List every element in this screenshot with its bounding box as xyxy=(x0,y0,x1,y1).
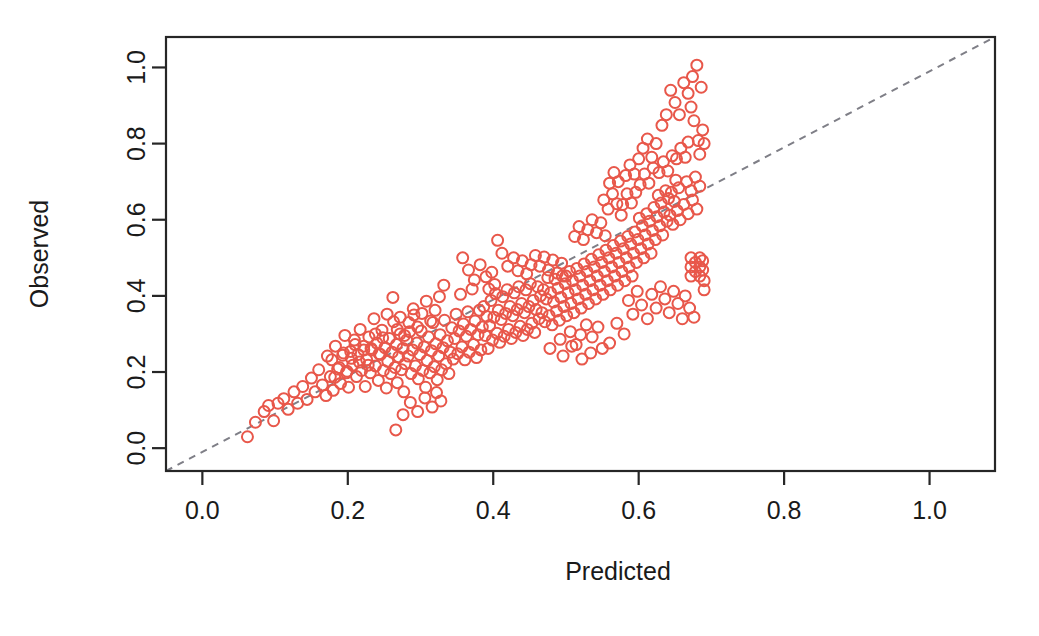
x-tick-label: 1.0 xyxy=(912,496,947,524)
x-axis-title: Predicted xyxy=(565,557,671,585)
plot-canvas: 0.00.20.40.60.81.0 0.00.20.40.60.81.0 Pr… xyxy=(0,0,1039,636)
scatter-plot-figure: 0.00.20.40.60.81.0 0.00.20.40.60.81.0 Pr… xyxy=(0,0,1039,636)
x-tick-label: 0.4 xyxy=(476,496,511,524)
y-tick-label: 0.6 xyxy=(122,202,150,237)
y-tick-label: 0.0 xyxy=(122,431,150,466)
y-tick-label: 0.2 xyxy=(122,355,150,390)
y-tick-label: 0.8 xyxy=(122,126,150,161)
x-tick-label: 0.0 xyxy=(185,496,220,524)
x-tick-label: 0.8 xyxy=(767,496,802,524)
x-tick-label: 0.6 xyxy=(621,496,656,524)
x-tick-label: 0.2 xyxy=(330,496,365,524)
y-axis-title: Observed xyxy=(25,200,53,308)
y-tick-label: 1.0 xyxy=(122,50,150,85)
y-tick-label: 0.4 xyxy=(122,278,150,313)
